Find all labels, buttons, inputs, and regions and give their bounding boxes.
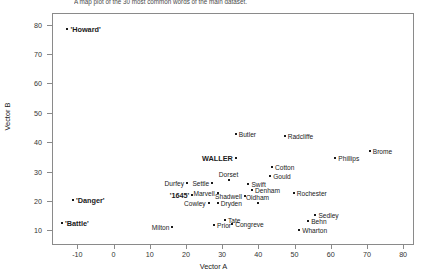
- x-tick-mark: [331, 245, 332, 249]
- data-point-marker: [247, 183, 249, 185]
- y-tick-label: 50: [16, 108, 42, 117]
- x-tick-label: -10: [72, 250, 82, 259]
- data-point-label: Cotton: [275, 163, 294, 170]
- y-tick-label: 70: [16, 50, 42, 59]
- data-point-marker: [271, 166, 273, 168]
- x-tick-mark: [114, 245, 115, 249]
- x-tick-label: 40: [254, 250, 262, 259]
- data-point-label: Cowley: [184, 200, 206, 207]
- x-tick-label: 80: [399, 250, 407, 259]
- data-point-label: Marvell: [193, 190, 214, 197]
- x-tick-mark: [295, 245, 296, 249]
- data-point-marker: [269, 175, 271, 177]
- x-tick-mark: [150, 245, 151, 249]
- data-point-marker: [231, 223, 233, 225]
- data-point-marker: [66, 28, 68, 30]
- data-point-marker: [61, 222, 63, 224]
- y-axis-label: Vector B: [3, 103, 12, 131]
- data-point-label: Brome: [373, 147, 392, 154]
- data-point-marker: [228, 179, 230, 181]
- data-point-label: Dorset: [219, 171, 238, 178]
- data-point-marker: [217, 202, 219, 204]
- data-point-marker: [213, 224, 215, 226]
- data-point-label: Denham: [255, 187, 280, 194]
- x-tick-mark: [258, 245, 259, 249]
- data-point-marker: [186, 182, 188, 184]
- y-tick-label: 30: [16, 167, 42, 176]
- y-tick-label: 10: [16, 226, 42, 235]
- x-tick-label: 60: [327, 250, 335, 259]
- data-point-marker: [251, 189, 253, 191]
- y-tick-label: 20: [16, 196, 42, 205]
- x-tick-mark: [77, 245, 78, 249]
- x-tick-label: 20: [182, 250, 190, 259]
- data-point-label: Settle: [192, 179, 209, 186]
- data-point-label: 'Battle': [65, 219, 89, 226]
- figure-caption: A map plot of the 30 most common words o…: [74, 0, 404, 6]
- data-point-label: Behn: [311, 218, 326, 225]
- x-tick-mark: [403, 245, 404, 249]
- data-point-label: 'Danger': [76, 197, 105, 204]
- data-point-label: Milton: [152, 223, 170, 230]
- x-tick-label: 0: [112, 250, 116, 259]
- data-point-label: Congreve: [235, 220, 264, 227]
- y-tick-label: 60: [16, 79, 42, 88]
- data-point-marker: [235, 157, 237, 159]
- data-point-marker: [293, 192, 295, 194]
- data-point-marker: [224, 219, 226, 221]
- y-tick-label: 80: [16, 20, 42, 29]
- x-tick-mark: [367, 245, 368, 249]
- x-tick-label: 70: [363, 250, 371, 259]
- data-point-label: Shadwell: [215, 193, 242, 200]
- data-point-label: Durfey: [165, 179, 184, 186]
- data-point-label: Rochester: [297, 190, 327, 197]
- y-tick-label: 40: [16, 138, 42, 147]
- x-tick-label: 10: [146, 250, 154, 259]
- data-point-marker: [307, 220, 309, 222]
- data-point-marker: [211, 182, 213, 184]
- data-point-label: WALLER: [202, 154, 233, 161]
- data-point-marker: [171, 226, 173, 228]
- data-point-label: 'Howard': [70, 25, 100, 32]
- data-point-marker: [334, 157, 336, 159]
- data-point-label: Prior: [217, 222, 231, 229]
- data-point-label: Oldham: [246, 194, 269, 201]
- x-tick-label: 50: [291, 250, 299, 259]
- data-point-label: Gould: [273, 172, 291, 179]
- x-tick-label: 30: [218, 250, 226, 259]
- x-tick-mark: [186, 245, 187, 249]
- x-tick-mark: [222, 245, 223, 249]
- data-point-marker: [298, 229, 300, 231]
- data-point-marker: [314, 214, 316, 216]
- data-point-label: Phillips: [338, 154, 359, 161]
- data-point-marker: [208, 202, 210, 204]
- data-point-marker: [257, 202, 259, 204]
- plot-area: 'Howard''Danger''Battle'ButlerRadcliffeP…: [52, 13, 414, 245]
- data-point-label: Butler: [239, 131, 256, 138]
- data-point-label: Radcliffe: [288, 132, 314, 139]
- data-point-marker: [369, 150, 371, 152]
- data-point-label: Dryden: [221, 200, 242, 207]
- data-point-marker: [284, 135, 286, 137]
- scatter-plot-figure: A map plot of the 30 most common words o…: [0, 0, 427, 279]
- data-point-marker: [235, 133, 237, 135]
- x-axis-label: Vector A: [0, 262, 427, 271]
- data-point-label: Wharton: [302, 226, 327, 233]
- data-point-label: '1645': [170, 191, 190, 198]
- data-point-marker: [72, 199, 74, 201]
